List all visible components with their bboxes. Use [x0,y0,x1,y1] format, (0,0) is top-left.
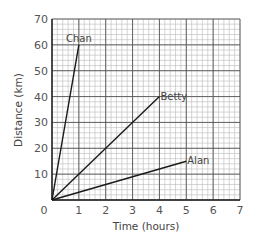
y-axis-label: Distance (km) [12,73,24,147]
x-tick-label: 2 [102,204,109,217]
x-tick-label: 0 [41,204,48,217]
x-tick-labels: 01234567 [41,204,244,217]
x-tick-label: 4 [156,204,163,217]
distance-time-chart: 01234567 10203040506070 ChanBettyAlan Ti… [0,0,257,246]
series-label-betty: Betty [160,91,187,102]
y-tick-labels: 10203040506070 [34,13,48,181]
x-tick-label: 1 [75,204,82,217]
y-tick-label: 70 [34,13,48,26]
y-tick-label: 10 [34,168,48,181]
y-tick-label: 50 [34,65,48,78]
series-label-chan: Chan [66,33,92,44]
y-tick-label: 60 [34,39,48,52]
x-tick-label: 5 [183,204,190,217]
y-tick-label: 30 [34,116,48,129]
x-tick-label: 3 [129,204,136,217]
x-tick-label: 6 [210,204,217,217]
y-tick-label: 40 [34,91,48,104]
x-axis-label: Time (hours) [112,220,180,232]
y-tick-label: 20 [34,142,48,155]
x-tick-label: 7 [237,204,244,217]
series-label-alan: Alan [187,155,209,166]
